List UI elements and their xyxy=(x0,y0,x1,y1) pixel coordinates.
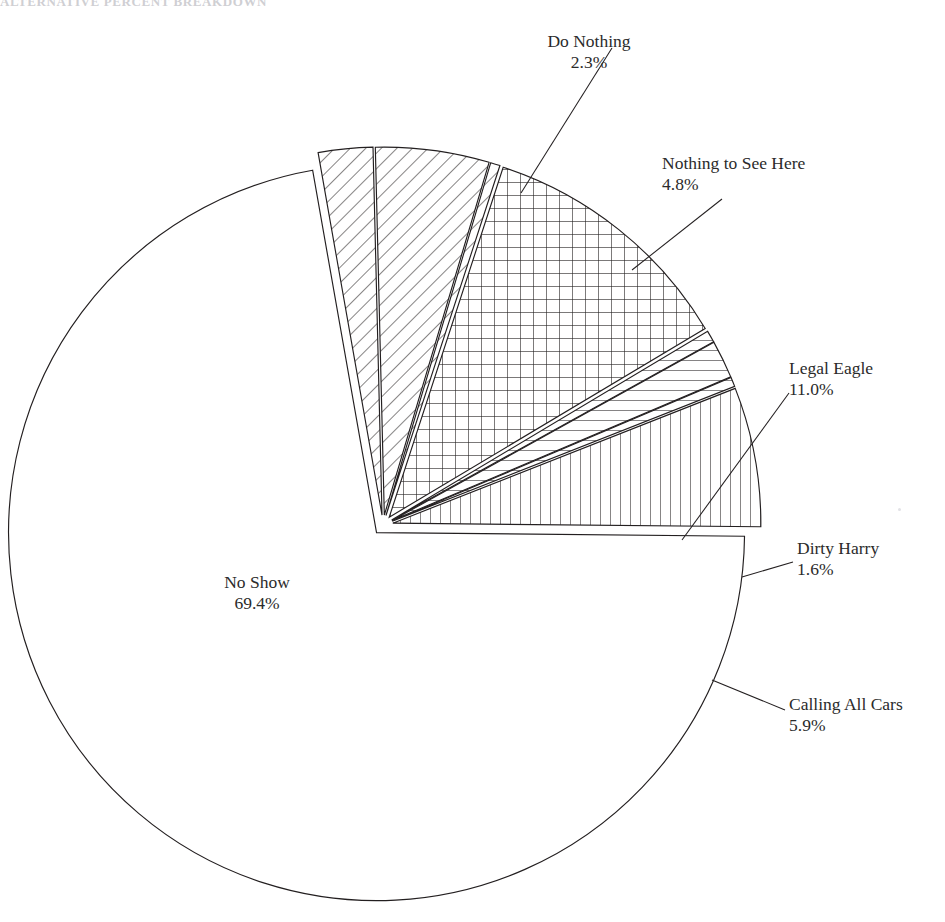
slice-label-calling-all-cars-name: Calling All Cars xyxy=(789,694,903,714)
slice-label-nothing-to-see-here-name: Nothing to See Here xyxy=(662,153,805,173)
slice-label-nothing-to-see-here: Nothing to See Here 4.8% xyxy=(662,153,805,196)
slice-label-dirty-harry-percent: 1.6% xyxy=(797,559,879,580)
slice-label-nothing-to-see-here-percent: 4.8% xyxy=(662,174,805,195)
slice-label-no-show-name: No Show xyxy=(224,572,290,592)
stray-dot-artifact xyxy=(898,508,901,511)
pie-slices-group xyxy=(9,147,761,901)
slice-label-dirty-harry: Dirty Harry 1.6% xyxy=(797,538,879,581)
slice-label-calling-all-cars: Calling All Cars 5.9% xyxy=(789,694,903,737)
slice-label-calling-all-cars-percent: 5.9% xyxy=(789,715,903,736)
slice-label-no-show-percent: 69.4% xyxy=(187,593,327,614)
pie-chart-canvas xyxy=(0,0,945,922)
slice-label-no-show: No Show 69.4% xyxy=(187,572,327,615)
slice-label-do-nothing-name: Do Nothing xyxy=(547,31,630,51)
slice-label-legal-eagle-percent: 11.0% xyxy=(789,379,873,400)
slice-label-legal-eagle: Legal Eagle 11.0% xyxy=(789,358,873,401)
leader-line-nothing-to-see-here xyxy=(632,199,722,270)
slice-label-do-nothing: Do Nothing 2.3% xyxy=(509,31,669,74)
slice-label-dirty-harry-name: Dirty Harry xyxy=(797,538,879,558)
slice-label-do-nothing-percent: 2.3% xyxy=(509,52,669,73)
leader-line-calling-all-cars xyxy=(712,680,785,710)
slice-label-legal-eagle-name: Legal Eagle xyxy=(789,358,873,378)
leader-line-dirty-harry xyxy=(742,562,793,577)
